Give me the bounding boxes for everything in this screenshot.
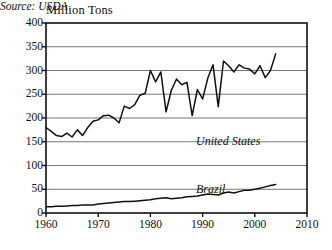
chart-plot-area [0,0,332,250]
x-tick-label: 1980 [139,219,162,231]
chart-container: Million Tons 400350300250200150100500 19… [0,0,332,250]
x-tick-label: 1970 [87,219,110,231]
y-tick-label: 350 [3,41,43,53]
y-tick-label: 250 [3,89,43,101]
x-tick-label: 1960 [35,219,58,231]
y-tick-label: 200 [3,112,43,124]
series-label-brazil: Brazil [196,182,225,197]
x-tick-label: 1990 [191,219,214,231]
x-tick-label: 2010 [296,219,319,231]
x-tick-label: 2000 [243,219,266,231]
y-tick-label: 150 [3,136,43,148]
series-label-united-states: United States [196,134,260,149]
gridlines [46,47,307,190]
y-tick-label: 300 [3,65,43,77]
data-series-layer [46,54,276,207]
y-tick-label: 100 [3,160,43,172]
y-tick-label-group: 400350300250200150100500 [0,0,43,250]
y-tick-label: 400 [3,17,43,29]
y-tick-label: 50 [3,184,43,196]
